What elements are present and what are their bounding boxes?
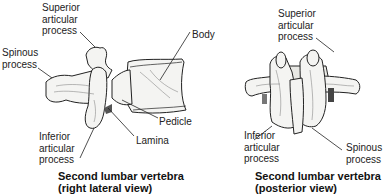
label-inferior-articular-process-posterior: Inferior articular process: [244, 130, 280, 165]
label-superior-articular-process-lateral: Superior articular process: [42, 2, 80, 37]
label-inferior-articular-process-lateral: Inferior articular process: [39, 131, 75, 166]
label-superior-articular-process-posterior: Superior articular process: [278, 8, 316, 43]
posterior-vertebra-drawing: [245, 50, 360, 134]
caption-lateral-line2: (right lateral view): [58, 182, 152, 194]
label-spinous-process-posterior: Spinous process: [346, 142, 382, 165]
vertebra-diagram: Superior articular process Spinous proce…: [0, 0, 384, 194]
label-pedicle: Pedicle: [159, 116, 192, 128]
label-body: Body: [192, 29, 215, 41]
label-spinous-process-lateral: Spinous process: [2, 47, 38, 70]
vertebral-body: [125, 59, 186, 113]
pedicle-shape: [112, 70, 132, 105]
caption-posterior-line2: (posterior view): [255, 182, 337, 194]
label-lamina: Lamina: [136, 135, 169, 147]
